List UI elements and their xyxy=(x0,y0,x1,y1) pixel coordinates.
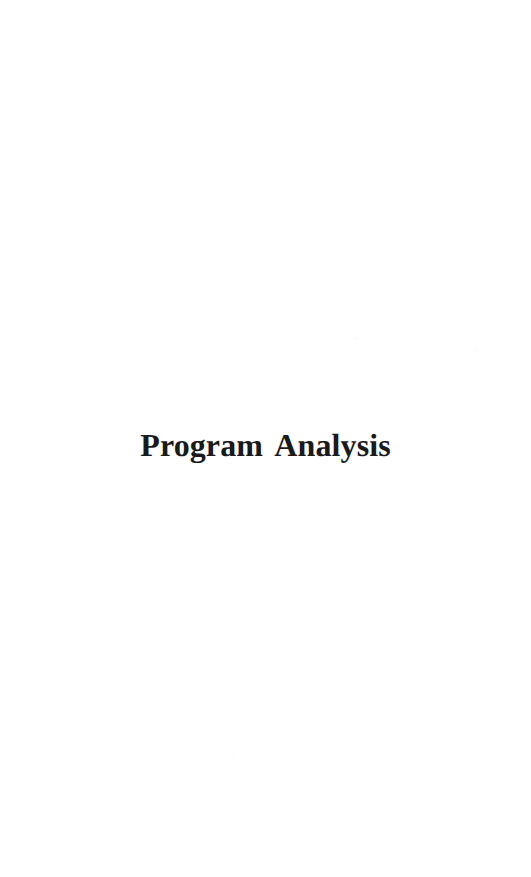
scan-speck xyxy=(356,337,359,340)
scan-speck xyxy=(234,755,236,759)
scan-speck xyxy=(475,350,478,353)
page-title: Program Analysis xyxy=(140,426,390,464)
scanned-page: Program Analysis xyxy=(0,0,531,877)
part-title-block: Program Analysis xyxy=(0,424,531,466)
